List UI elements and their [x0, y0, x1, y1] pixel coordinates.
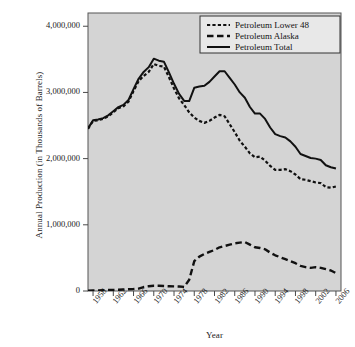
- y-axis-tick-label: 3,000,000: [22, 86, 80, 96]
- petroleum-production-chart: Annual Production (in Thousands of Barre…: [0, 0, 355, 347]
- x-axis-title: Year: [88, 330, 341, 340]
- legend-label: Petroleum Lower 48: [235, 20, 309, 30]
- legend-label: Petroleum Total: [235, 42, 293, 52]
- y-axis-tick-label: 0: [22, 285, 80, 295]
- legend-label: Petroleum Alaska: [235, 31, 299, 41]
- y-axis-tick-label: 1,000,000: [22, 219, 80, 229]
- legend: Petroleum Lower 48Petroleum AlaskaPetrol…: [200, 16, 340, 53]
- y-axis-tick-label: 2,000,000: [22, 153, 80, 163]
- plot-area-background: [88, 13, 341, 291]
- y-axis-tick-label: 4,000,000: [22, 20, 80, 30]
